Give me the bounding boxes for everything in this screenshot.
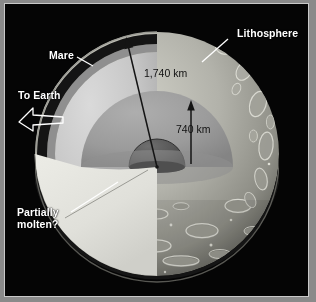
callout-label-lithosphere: Lithosphere	[237, 28, 298, 40]
callout-label-partially-molten: Partially molten?	[17, 207, 59, 230]
callout-label-to-earth: To Earth	[18, 90, 61, 102]
dimension-arrow-outer-origin	[155, 165, 159, 169]
figure-root: Lithosphere Mare To Earth Partially molt…	[0, 0, 316, 302]
dimension-label-outer-radius: 1,740 km	[144, 67, 187, 79]
moon-cutaway-illustration	[5, 4, 309, 297]
callout-label-mare: Mare	[49, 50, 74, 62]
dimension-label-inner-radius: 740 km	[176, 123, 210, 135]
crater	[249, 130, 258, 142]
figure-frame: Lithosphere Mare To Earth Partially molt…	[4, 3, 309, 297]
crater	[266, 115, 275, 129]
